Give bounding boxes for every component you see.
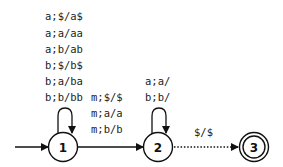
transition-label: b;$/b$ <box>45 59 83 71</box>
state-3-accepting: 3 <box>240 133 269 162</box>
state-2: 2 <box>144 133 173 162</box>
automaton-diagram: 1 2 3 a;$/a$ a;a/aa a;b/ab b;$/b$ b;a/ba… <box>0 0 283 167</box>
transition-label: m;$/$ <box>91 91 123 103</box>
transition-label: m;b/b <box>91 123 123 135</box>
loop-arrow-state-2 <box>152 108 166 134</box>
state-1-label: 1 <box>59 141 67 155</box>
transition-label: b;b/bb <box>45 91 83 103</box>
loop-labels-state-2: a;a/ b;b/ <box>145 75 170 103</box>
state-3-label: 3 <box>250 141 258 155</box>
transition-labels-1-2: m;$/$ m;a/a m;b/b <box>91 91 123 135</box>
state-1: 1 <box>49 133 78 162</box>
transition-label-2-3: $/$ <box>194 126 213 138</box>
transition-label: a;a/aa <box>45 27 83 39</box>
loop-labels-state-1: a;$/a$ a;a/aa a;b/ab b;$/b$ b;a/ba b;b/b… <box>45 10 83 103</box>
transition-label: m;a/a <box>91 107 123 119</box>
transition-label: a;a/ <box>145 75 170 87</box>
state-2-label: 2 <box>154 141 162 155</box>
transition-label: b;b/ <box>145 91 170 103</box>
loop-arrow-state-1 <box>58 108 72 134</box>
transition-label: b;a/ba <box>45 75 83 87</box>
transition-label: a;b/ab <box>45 43 83 55</box>
transition-label: a;$/a$ <box>45 10 83 22</box>
